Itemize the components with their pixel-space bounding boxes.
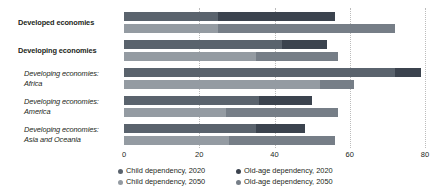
x-tick-20: 20: [195, 150, 203, 159]
bar-segment-child-2020: [124, 12, 218, 21]
legend-item-0[interactable]: Child dependency, 2020: [118, 166, 205, 176]
bar-segment-oldage-2020: [395, 68, 421, 77]
bar-segment-child-2020: [124, 68, 395, 77]
category-label-1: Developing economies: [18, 46, 97, 56]
bar-segment-child-2020: [124, 40, 282, 49]
x-axis: 020406080: [124, 150, 425, 164]
bar-segment-oldage-2020: [256, 124, 305, 133]
category-label-4: Developing economies: Asia and Oceania: [24, 125, 99, 144]
bar-2050: [124, 108, 338, 117]
bar-segment-child-2050: [124, 24, 218, 33]
bar-segment-oldage-2050: [218, 24, 395, 33]
chart-legend: Child dependency, 2020Child dependency, …: [118, 166, 358, 190]
bar-segment-child-2020: [124, 96, 259, 105]
bar-2050: [124, 136, 335, 145]
bar-segment-child-2050: [124, 108, 226, 117]
bar-segment-oldage-2020: [282, 40, 327, 49]
category-label-0: Developed economies: [18, 18, 94, 28]
legend-swatch-icon: [118, 180, 123, 185]
bar-2020: [124, 124, 305, 133]
legend-label: Child dependency, 2020: [126, 166, 205, 176]
bar-segment-child-2020: [124, 124, 256, 133]
category-axis-labels: Developed economiesDeveloping economiesD…: [0, 8, 118, 148]
x-tick-60: 60: [346, 150, 354, 159]
bar-segment-oldage-2020: [218, 12, 335, 21]
legend-label: Child dependency, 2050: [126, 177, 205, 187]
bar-segment-oldage-2050: [256, 52, 339, 61]
legend-item-2[interactable]: Old-age dependency, 2020: [236, 166, 333, 176]
legend-item-3[interactable]: Old-age dependency, 2050: [236, 177, 333, 187]
bar-segment-child-2050: [124, 80, 320, 89]
dependency-ratio-chart: Developed economiesDeveloping economiesD…: [0, 0, 444, 196]
bar-segment-child-2050: [124, 52, 256, 61]
bar-segment-oldage-2050: [320, 80, 354, 89]
legend-label: Old-age dependency, 2050: [244, 177, 333, 187]
bar-2020: [124, 96, 312, 105]
bar-2050: [124, 52, 338, 61]
bar-segment-oldage-2020: [259, 96, 312, 105]
x-tick-40: 40: [270, 150, 278, 159]
x-tick-80: 80: [421, 150, 429, 159]
legend-item-1[interactable]: Child dependency, 2050: [118, 177, 205, 187]
bar-2020: [124, 12, 335, 21]
category-label-2: Developing economies: Africa: [24, 69, 99, 88]
gridline-80: [425, 8, 427, 148]
legend-label: Old-age dependency, 2020: [244, 166, 333, 176]
category-label-3: Developing economies: America: [24, 97, 99, 116]
bar-2050: [124, 80, 354, 89]
bar-segment-oldage-2050: [229, 136, 334, 145]
plot-area: [124, 8, 425, 148]
bar-2050: [124, 24, 395, 33]
legend-swatch-icon: [118, 169, 123, 174]
bar-2020: [124, 40, 327, 49]
bar-segment-oldage-2050: [226, 108, 339, 117]
legend-swatch-icon: [236, 169, 241, 174]
bar-segment-child-2050: [124, 136, 229, 145]
legend-swatch-icon: [236, 180, 241, 185]
x-tick-0: 0: [122, 150, 126, 159]
bar-2020: [124, 68, 421, 77]
